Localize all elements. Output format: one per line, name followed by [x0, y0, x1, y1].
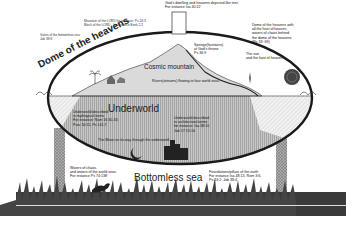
cosmology-diagram: Underworld Bottomless sea Cosmic mountai… — [0, 0, 361, 230]
springs-label: Springs(fountains) at God's throne Ps 36… — [194, 43, 223, 56]
cosmic-mountain-label: Cosmic mountain — [144, 63, 194, 70]
underworld-mythological-label: Underworld described in mythogical terms… — [73, 110, 119, 127]
foundations-label: Foundations/pillars of the earth For ins… — [209, 170, 261, 183]
gates-label: Gates of the bottomless sea Job 38:8 — [40, 34, 80, 42]
rivers-label: Rivers(streams) flowing to four world se… — [152, 79, 220, 83]
waters-of-chaos-label: Waters of chaos, and waters of the world… — [70, 166, 117, 179]
gods-dwelling-label: God's dwelling and heavens depicted like… — [165, 1, 239, 9]
moon-label: The Moon on its way through the underwor… — [98, 138, 169, 142]
sun-icon — [284, 69, 300, 85]
gods-dwelling-tent — [172, 12, 186, 34]
underworld-architectural-label: Underworld described in architectural te… — [174, 116, 209, 133]
sea-monster-icon — [92, 183, 110, 192]
sun-label: The sun and the host of heaven. — [246, 52, 284, 60]
mountain-of-lord-label: Mountain of the LORD for instance: Ps 24… — [84, 20, 146, 28]
bottomless-sea-label: Bottomless sea — [134, 172, 202, 183]
dome-waters-label: Dome of the heavens with all the host of… — [252, 23, 294, 44]
